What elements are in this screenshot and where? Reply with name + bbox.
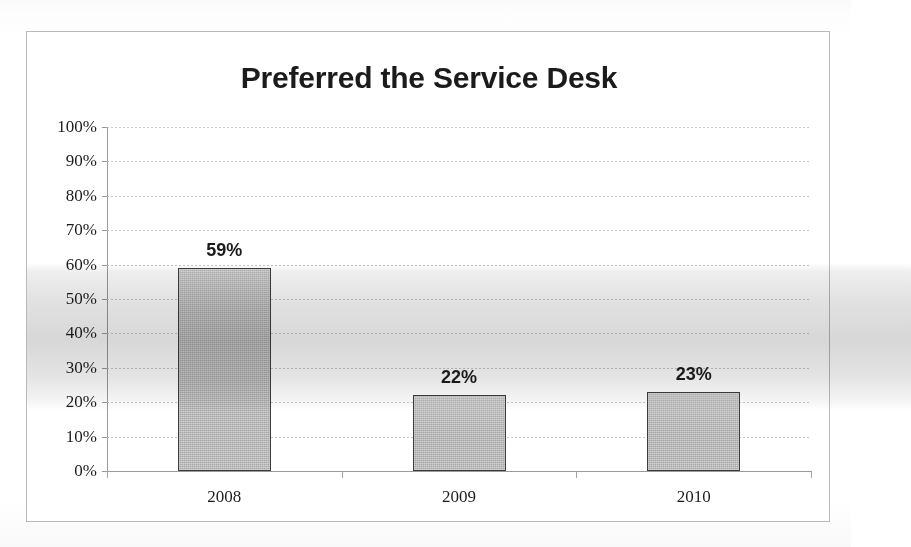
x-tick-mark [576,472,577,478]
chart-frame: Preferred the Service Desk 100%90%80%70%… [26,31,830,522]
y-tick-label: 60% [31,256,97,273]
plot-area [107,127,811,471]
gridline [107,265,811,266]
bar-value-label: 59% [144,240,304,261]
y-tick-label: 10% [31,428,97,445]
bar-2008[interactable] [178,268,271,471]
chart-title: Preferred the Service Desk [27,61,831,95]
y-tick-label: 90% [31,152,97,169]
y-tick-label: 40% [31,324,97,341]
x-tick-mark [811,472,812,478]
y-tick-label: 70% [31,221,97,238]
bar-2010[interactable] [647,392,740,471]
x-tick-label: 2009 [379,487,539,507]
y-tick-label: 20% [31,393,97,410]
y-tick-label: 50% [31,290,97,307]
bar-value-label: 23% [614,364,774,385]
bar-value-label: 22% [379,367,539,388]
gridline [107,471,811,472]
bar-2009[interactable] [413,395,506,471]
y-tick-label: 80% [31,187,97,204]
gridline [107,230,811,231]
x-tick-mark [107,472,108,478]
gridline [107,196,811,197]
y-tick-label: 30% [31,359,97,376]
y-tick-label: 100% [31,118,97,135]
y-tick-label: 0% [31,462,97,479]
x-tick-mark [342,472,343,478]
x-tick-label: 2010 [614,487,774,507]
x-tick-label: 2008 [144,487,304,507]
gridline [107,161,811,162]
gridline [107,127,811,128]
y-axis-labels: 100%90%80%70%60%50%40%30%20%10%0% [27,32,97,523]
scan-shading-band [27,263,911,411]
